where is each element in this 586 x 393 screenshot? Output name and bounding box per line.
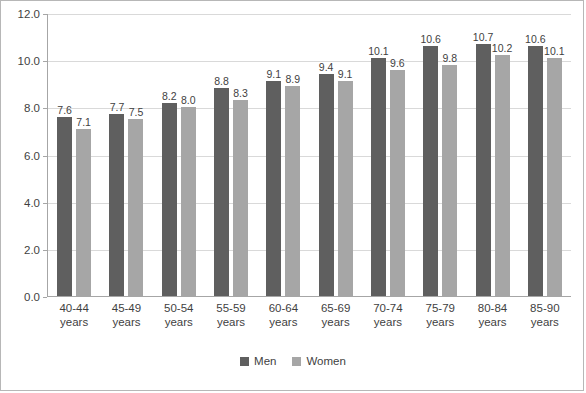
- bar-value-label: 8.8: [214, 75, 229, 87]
- bar-value-label: 8.0: [181, 94, 196, 106]
- bar-value-label: 10.6: [421, 33, 441, 45]
- x-axis-labels: 40-44years45-49years50-54years55-59years…: [48, 301, 571, 329]
- bar-men: 10.6: [423, 46, 438, 296]
- bar-women: 8.0: [181, 107, 196, 296]
- bar-women: 7.5: [128, 119, 143, 296]
- bar-men: 9.4: [319, 74, 334, 296]
- bar-value-label: 7.5: [129, 106, 144, 118]
- legend-item-men: Men: [240, 355, 276, 367]
- chart-legend: MenWomen: [1, 355, 585, 367]
- bar-men: 10.6: [528, 46, 543, 296]
- legend-swatch-icon: [240, 357, 249, 366]
- bar-women: 8.3: [233, 100, 248, 296]
- bar-value-label: 10.1: [368, 45, 388, 57]
- bar-women: 10.2: [495, 55, 510, 296]
- x-axis-category-label: 45-49years: [100, 301, 152, 329]
- legend-item-women: Women: [292, 355, 345, 367]
- bar-women: 9.6: [390, 70, 405, 296]
- bar-value-label: 9.6: [390, 57, 405, 69]
- x-axis-category-label: 75-79years: [414, 301, 466, 329]
- x-axis-category-label: 70-74years: [362, 301, 414, 329]
- legend-swatch-icon: [292, 357, 301, 366]
- bar-value-label: 8.9: [286, 73, 301, 85]
- bar-group: 8.88.3: [205, 14, 257, 296]
- bar-value-label: 8.3: [233, 87, 248, 99]
- bar-men: 10.7: [476, 44, 491, 296]
- bar-value-label: 9.8: [442, 52, 457, 64]
- bar-women: 9.1: [338, 81, 353, 296]
- y-axis-tick-mark: [43, 297, 47, 298]
- bar-men: 7.6: [57, 117, 72, 296]
- bar-value-label: 9.1: [338, 68, 353, 80]
- bar-value-label: 7.6: [57, 104, 72, 116]
- bar-value-label: 10.7: [473, 31, 493, 43]
- legend-label: Men: [254, 355, 276, 367]
- x-axis-category-label: 40-44years: [48, 301, 100, 329]
- bar-men: 8.8: [214, 88, 229, 296]
- bar-women: 7.1: [76, 129, 91, 296]
- bar-group: 10.710.2: [466, 14, 518, 296]
- legend-label: Women: [306, 355, 345, 367]
- bar-value-label: 8.2: [162, 90, 177, 102]
- bar-value-label: 10.2: [492, 42, 512, 54]
- bar-group: 9.49.1: [309, 14, 361, 296]
- bar-group: 10.610.1: [519, 14, 571, 296]
- x-axis-category-label: 80-84years: [466, 301, 518, 329]
- x-axis-category-label: 60-64years: [257, 301, 309, 329]
- bar-group: 7.77.5: [100, 14, 152, 296]
- bar-value-label: 10.6: [525, 33, 545, 45]
- bar-value-label: 7.7: [110, 101, 125, 113]
- x-axis-category-label: 55-59years: [205, 301, 257, 329]
- chart-container: 0.02.04.06.08.010.012.0 7.67.17.77.58.28…: [0, 0, 584, 391]
- bar-value-label: 9.4: [319, 61, 334, 73]
- bar-group: 9.18.9: [257, 14, 309, 296]
- x-axis-category-label: 50-54years: [153, 301, 205, 329]
- bar-men: 8.2: [162, 103, 177, 296]
- plot-area: 0.02.04.06.08.010.012.0 7.67.17.77.58.28…: [47, 14, 571, 297]
- bar-men: 10.1: [371, 58, 386, 296]
- bar-group: 7.67.1: [48, 14, 100, 296]
- bar-women: 9.8: [442, 65, 457, 296]
- bar-women: 8.9: [285, 86, 300, 296]
- bar-value-label: 9.1: [267, 68, 282, 80]
- x-axis-category-label: 65-69years: [309, 301, 361, 329]
- x-axis-category-label: 85-90years: [519, 301, 571, 329]
- bar-group: 10.19.6: [362, 14, 414, 296]
- bar-women: 10.1: [547, 58, 562, 296]
- x-axis-line: [47, 296, 571, 297]
- bar-men: 7.7: [109, 114, 124, 296]
- bar-men: 9.1: [266, 81, 281, 296]
- bar-groups: 7.67.17.77.58.28.08.88.39.18.99.49.110.1…: [48, 14, 571, 296]
- bar-group: 10.69.8: [414, 14, 466, 296]
- bar-value-label: 10.1: [544, 45, 564, 57]
- bar-value-label: 7.1: [76, 116, 91, 128]
- bar-group: 8.28.0: [153, 14, 205, 296]
